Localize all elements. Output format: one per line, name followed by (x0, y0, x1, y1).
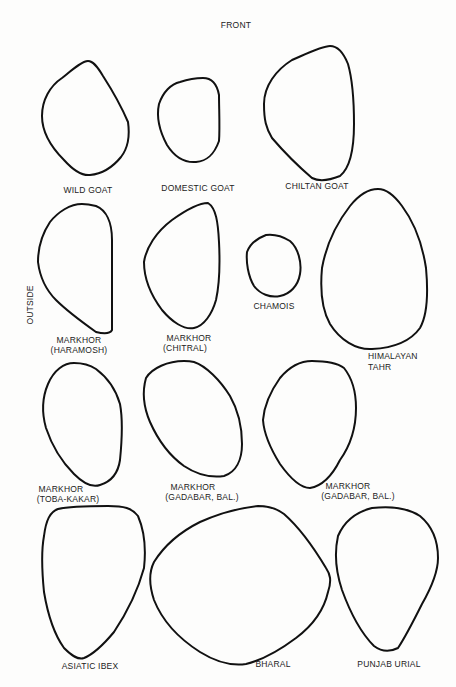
markhor-gadabar-2-label-1: MARKHOR (326, 481, 371, 491)
chiltan-goat-outline (264, 46, 354, 180)
markhor-gadabar-1-label-2: (GADABAR, BAL.) (165, 492, 238, 502)
horn-cross-section-diagram: FRONT OUTSIDE WILD GOAT DOMESTIC GOAT CH… (0, 0, 456, 687)
markhor-chitral-label-1: MARKHOR (167, 333, 212, 343)
markhor-gadabar-1-label-1: MARKHOR (171, 482, 216, 492)
wild-goat-outline (42, 61, 129, 175)
asiatic-ibex-outline (42, 506, 145, 659)
markhor-gadabar-1-outline (144, 361, 242, 477)
markhor-haramosh-outline (38, 204, 112, 333)
chamois-outline (247, 235, 301, 297)
asiatic-ibex-label: ASIATIC IBEX (62, 661, 119, 671)
domestic-goat-label: DOMESTIC GOAT (161, 183, 234, 193)
markhor-gadabar-2-label-2: (GADABAR, BAL.) (321, 491, 394, 501)
chiltan-goat-label: CHILTAN GOAT (285, 181, 348, 191)
domestic-goat-outline (158, 78, 219, 162)
chamois-label: CHAMOIS (253, 301, 294, 311)
markhor-chitral-outline (144, 203, 220, 328)
himalayan-tahr-label-1: HIMALAYAN (368, 351, 418, 361)
markhor-haramosh-label-1: MARKHOR (57, 335, 102, 345)
bharal-outline (150, 506, 330, 665)
markhor-chitral-label-2: (CHITRAL) (163, 343, 207, 353)
outside-label: OUTSIDE (25, 285, 35, 324)
himalayan-tahr-label-2: TAHR (368, 362, 391, 372)
wild-goat-label: WILD GOAT (64, 185, 113, 195)
markhor-toba-kakar-label-2: (TOBA-KAKAR) (37, 494, 100, 504)
punjab-urial-label: PUNJAB URIAL (357, 659, 420, 669)
markhor-haramosh-label-2: (HARAMOSH) (51, 345, 108, 355)
himalayan-tahr-outline (321, 189, 427, 349)
markhor-toba-kakar-outline (43, 363, 122, 486)
markhor-toba-kakar-label-1: MARKHOR (39, 484, 84, 494)
bharal-label: BHARAL (255, 659, 290, 669)
punjab-urial-outline (336, 507, 438, 651)
markhor-gadabar-2-outline (263, 361, 356, 488)
front-label: FRONT (221, 20, 251, 30)
